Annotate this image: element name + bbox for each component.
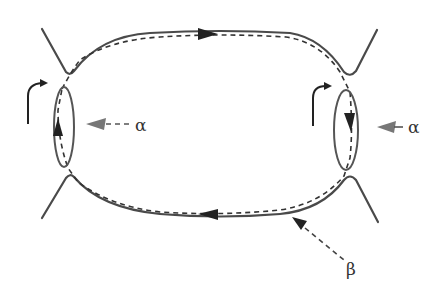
alpha-right-arrowhead	[377, 121, 396, 133]
orbit-arrowhead-right	[344, 113, 355, 132]
alpha-left-label: α	[135, 115, 147, 135]
orbit-diagram: α α β	[0, 0, 439, 291]
orbit-arrowhead-top	[198, 28, 218, 40]
right-ellipse	[334, 90, 358, 170]
alpha-left-arrowhead	[86, 118, 106, 130]
alpha-right-label: α	[408, 117, 420, 137]
beta-arrowhead	[292, 217, 307, 230]
beta-label: β	[346, 259, 356, 279]
beta-dashed-line	[305, 228, 344, 260]
curved-arrow-left	[28, 83, 46, 124]
orbit-arrowhead-bottom	[198, 209, 218, 220]
curved-arrow-right	[313, 86, 330, 126]
